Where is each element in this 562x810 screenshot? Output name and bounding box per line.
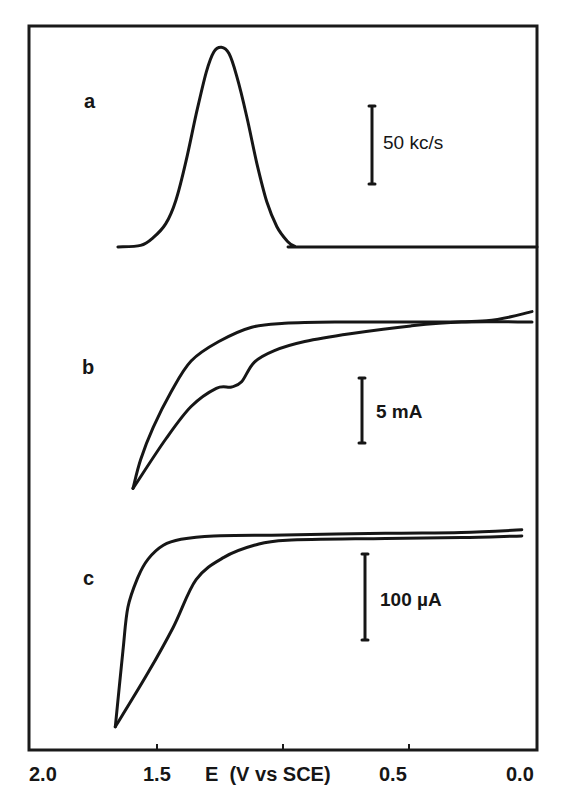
panel-c: c 100 µA [83, 530, 522, 727]
cv-b-forward-curve [133, 312, 532, 489]
cv-c-reverse-curve [115, 536, 522, 727]
x-tick-label-0.0: 0.0 [506, 763, 534, 785]
scale-bar-c-label: 100 µA [380, 589, 442, 610]
plot-frame [29, 26, 537, 750]
scale-bar-b: 5 mA [359, 378, 423, 443]
cyclic-voltammetry-figure: 2.0 1.5 E (V vs SCE) 0.5 0.0 a 50 kc/s b… [0, 0, 562, 810]
panel-label-c: c [83, 567, 94, 589]
scale-bar-c: 100 µA [362, 554, 442, 640]
panel-label-a: a [84, 90, 96, 112]
x-axis-title: E (V vs SCE) [205, 763, 331, 785]
panel-a: a 50 kc/s [84, 47, 537, 247]
cv-b-reverse-curve [133, 322, 532, 489]
ecl-intensity-curve [118, 47, 537, 247]
scale-bar-b-label: 5 mA [376, 401, 423, 422]
scale-bar-a: 50 kc/s [369, 106, 443, 184]
panel-label-b: b [82, 356, 94, 378]
x-tick-label-2.0: 2.0 [29, 763, 57, 785]
x-tick-label-1.5: 1.5 [143, 763, 171, 785]
panel-b: b 5 mA [82, 312, 532, 489]
scale-bar-a-label: 50 kc/s [383, 132, 443, 153]
x-tick-label-0.5: 0.5 [379, 763, 407, 785]
cv-c-forward-curve [115, 530, 522, 727]
